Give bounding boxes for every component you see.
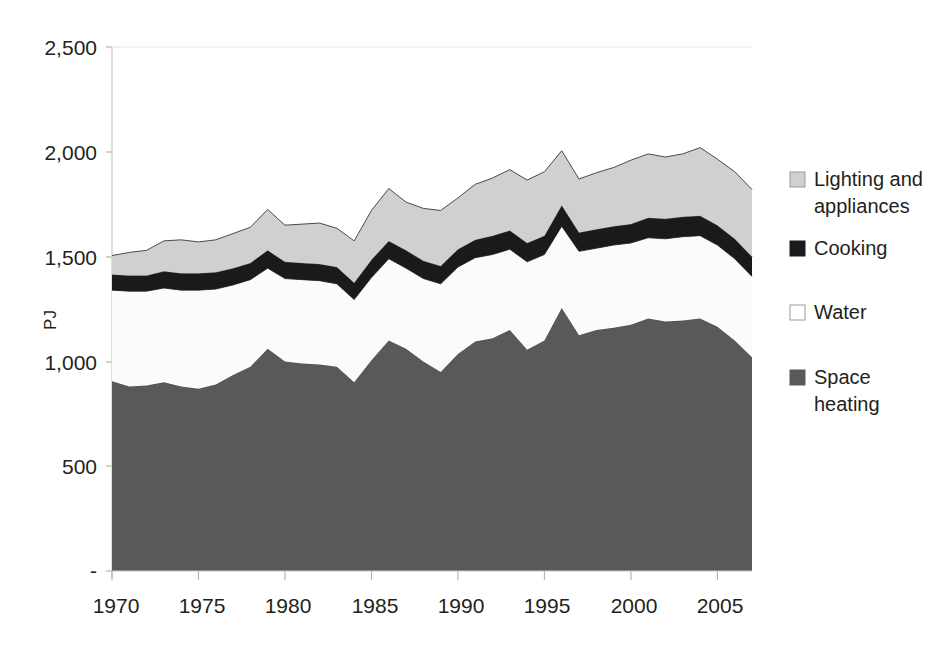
y-tick-0: - [90,559,97,582]
legend-label-water: Water [814,301,867,323]
legend-label-space-heating-line2: heating [814,393,880,415]
y-tick-2000: 2,000 [44,141,97,164]
legend-swatch-water [790,305,805,320]
x-tick-1985: 1985 [352,594,399,617]
legend-label-lighting-and-appliances-line1: Lighting and [814,168,923,190]
y-tick-2500: 2,500 [44,36,97,59]
y-axis-title: PJ [41,310,60,330]
x-tick-2005: 2005 [697,594,744,617]
legend-item-cooking[interactable]: Cooking [790,237,887,259]
y-tick-1000: 1,000 [44,351,97,374]
legend-swatch-space-heating [790,370,805,385]
chart-container: 2,500 2,000 1,500 1,000 500 - PJ 1970 19… [0,0,935,650]
legend-label-space-heating-line1: Space [814,366,871,388]
legend-label-lighting-and-appliances-line2: appliances [814,195,910,217]
x-tick-1980: 1980 [265,594,312,617]
x-tick-1990: 1990 [438,594,485,617]
legend-item-space-heating[interactable]: Space heating [790,366,880,415]
legend-swatch-cooking [790,241,805,256]
y-tick-1500: 1,500 [44,246,97,269]
x-tick-2000: 2000 [611,594,658,617]
chart-legend: Lighting and appliances Cooking Water Sp… [790,168,923,415]
x-tick-1970: 1970 [93,594,140,617]
stacked-area-chart: 2,500 2,000 1,500 1,000 500 - PJ 1970 19… [0,0,935,650]
x-tick-1995: 1995 [524,594,571,617]
legend-item-lighting-and-appliances[interactable]: Lighting and appliances [790,168,923,217]
y-axis-tick-labels: 2,500 2,000 1,500 1,000 500 - [44,36,97,582]
y-tick-500: 500 [62,455,97,478]
legend-swatch-lighting-and-appliances [790,172,805,187]
x-axis-ticks [112,571,717,580]
legend-item-water[interactable]: Water [790,301,867,323]
x-tick-1975: 1975 [179,594,226,617]
x-axis-tick-labels: 1970 1975 1980 1985 1990 1995 2000 2005 [93,594,744,617]
legend-label-cooking: Cooking [814,237,887,259]
